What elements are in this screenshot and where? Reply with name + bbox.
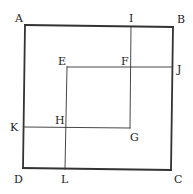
segment-bc bbox=[171, 27, 173, 170]
segment-cd bbox=[23, 168, 171, 170]
segment-kg bbox=[24, 127, 130, 128]
label-h: H bbox=[55, 114, 65, 127]
label-g: G bbox=[130, 131, 139, 144]
label-e: E bbox=[58, 55, 66, 68]
segment-ab bbox=[25, 25, 173, 27]
label-a: A bbox=[14, 12, 24, 25]
label-i: I bbox=[129, 12, 133, 25]
label-b: B bbox=[177, 13, 185, 26]
label-c: C bbox=[174, 173, 182, 186]
label-k: K bbox=[10, 121, 19, 134]
label-f: F bbox=[121, 55, 129, 68]
label-d: D bbox=[14, 173, 23, 186]
segment-ig bbox=[130, 27, 131, 128]
geometry-diagram: ABCDEFGHIJKL bbox=[0, 0, 193, 194]
label-j: J bbox=[176, 63, 181, 76]
point-labels: ABCDEFGHIJKL bbox=[10, 12, 185, 186]
segments bbox=[23, 25, 173, 170]
label-l: L bbox=[61, 173, 69, 186]
segment-el bbox=[65, 67, 67, 169]
segment-da bbox=[23, 25, 25, 168]
